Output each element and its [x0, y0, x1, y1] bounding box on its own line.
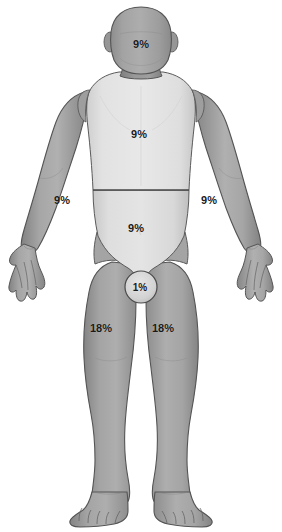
human-body-illustration — [0, 0, 282, 532]
head-shape — [111, 7, 172, 74]
feet-group — [70, 491, 212, 527]
rule-of-nines-diagram: 9% 9% 9% 9% 9% 1% 18% 18% — [0, 0, 282, 532]
right-foot-shape — [154, 492, 212, 527]
left-arm-shape — [21, 92, 87, 254]
left-foot-shape — [70, 492, 128, 527]
left-leg-shape — [84, 262, 136, 509]
head-group — [104, 7, 178, 74]
left-hand-shape — [9, 244, 45, 301]
right-hand-shape — [237, 244, 273, 301]
right-arm-shape — [195, 92, 261, 254]
groin-circle-shape — [125, 271, 157, 303]
right-leg-shape — [146, 262, 198, 509]
